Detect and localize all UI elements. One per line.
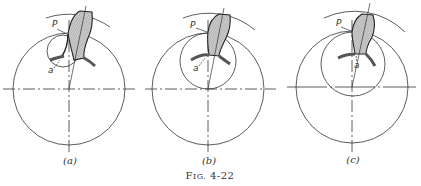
caption-number: 4-22 xyxy=(206,170,234,181)
point-a-label-c: a xyxy=(354,60,360,70)
gear-tooth-figure: P a P a P a (a) (b) (c) FIG. 4-22 xyxy=(0,0,421,186)
root-fillet-right xyxy=(84,58,95,66)
point-a-label-b: a xyxy=(193,63,199,73)
point-P-label-a: P xyxy=(52,19,57,29)
panel-a xyxy=(3,6,136,153)
root-fillet-right xyxy=(219,56,230,64)
panel-label-c: (c) xyxy=(346,154,359,165)
root-fillet-left xyxy=(338,54,355,58)
panel-label-a: (a) xyxy=(63,155,77,166)
panel-c xyxy=(287,3,416,155)
a-leader xyxy=(199,58,205,66)
P-leader xyxy=(196,28,207,32)
figure-caption: FIG. 4-22 xyxy=(186,170,235,181)
root-fillet-right xyxy=(366,54,375,66)
tooth-flank xyxy=(62,34,68,56)
root-fillet-left xyxy=(50,56,64,60)
point-P-label-b: P xyxy=(190,20,195,30)
point-P-label-c: P xyxy=(336,18,341,28)
P-leader xyxy=(341,27,351,31)
caption-small: IG. xyxy=(193,172,206,181)
panel-b xyxy=(145,8,276,153)
root-fillet-left xyxy=(191,55,209,60)
point-a-label-a: a xyxy=(48,65,54,75)
panel-label-b: (b) xyxy=(202,155,216,166)
